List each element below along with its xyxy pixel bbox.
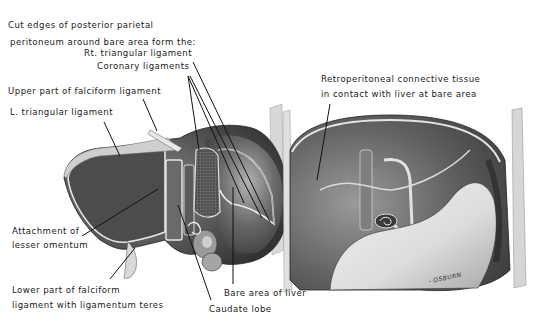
label-retroperitoneal-line2: in contact with liver at bare area — [321, 89, 477, 100]
liver-left-panel — [64, 104, 288, 279]
label-caudate-lobe: Caudate lobe — [209, 304, 272, 315]
label-coronary-ligaments: Coronary ligaments — [97, 61, 189, 72]
figure-stage: Cut edges of posterior parietal peritone… — [0, 0, 533, 321]
abdominal-wall-right-panel — [283, 108, 526, 292]
label-rt-triangular-ligament: Rt. triangular ligament — [84, 48, 192, 59]
label-l-triangular-ligament: L. triangular ligament — [10, 107, 113, 118]
label-cut-edges-line1: Cut edges of posterior parietal — [8, 20, 153, 31]
label-cut-edges-line2: peritoneum around bare area form the: — [10, 37, 196, 48]
label-lower-falciform-line2: ligament with ligamentum teres — [12, 300, 163, 311]
label-retroperitoneal-line1: Retroperitoneal connective tissue — [321, 74, 480, 85]
label-lesser-omentum-line1: Attachment of — [12, 226, 79, 237]
label-upper-falciform-ligament: Upper part of falciform ligament — [8, 86, 161, 97]
label-lower-falciform-line1: Lower part of falciform — [12, 285, 120, 296]
label-lesser-omentum-line2: lesser omentum — [12, 240, 88, 251]
leader-upper-falciform — [143, 99, 157, 131]
label-bare-area-of-liver: Bare area of liver — [224, 288, 306, 299]
